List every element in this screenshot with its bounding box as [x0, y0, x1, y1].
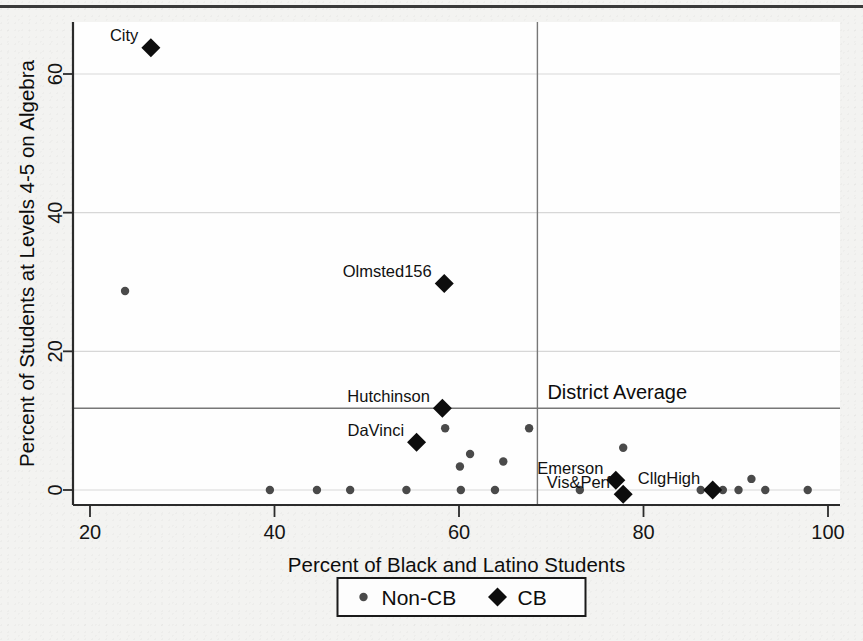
y-tick-label: 60 [44, 63, 66, 85]
data-point-non-cb [734, 486, 742, 494]
data-point-non-cb [346, 486, 354, 494]
y-tick-label: 40 [44, 202, 66, 224]
chart-legend[interactable]: Non-CB CB [338, 578, 586, 616]
point-label: Olmsted156 [343, 262, 432, 280]
data-point-non-cb [619, 444, 627, 452]
x-tick-label: 80 [632, 521, 654, 543]
x-tick-label: 100 [811, 521, 844, 543]
data-point-non-cb [761, 486, 769, 494]
data-point-non-cb [457, 486, 465, 494]
y-tick-label: 20 [44, 340, 66, 362]
x-axis-title: Percent of Black and Latino Students [288, 553, 625, 576]
district-average-label: District Average [547, 381, 687, 403]
point-label: Vis&Perf [547, 473, 611, 491]
data-point-non-cb [466, 450, 474, 458]
x-tick-label: 20 [79, 521, 101, 543]
point-label: CllgHigh [638, 469, 700, 487]
point-label: DaVinci [348, 421, 405, 439]
plot-area-background [73, 22, 840, 505]
legend-label-cb: CB [518, 586, 547, 609]
data-point-non-cb [266, 486, 274, 494]
point-label: Hutchinson [347, 387, 430, 405]
data-point-non-cb [402, 486, 410, 494]
x-tick-label: 40 [263, 521, 285, 543]
y-axis-ticks: 0204060 [44, 63, 73, 496]
legend-border [338, 578, 586, 616]
legend-label-non-cb: Non-CB [382, 586, 457, 609]
scatter-plot-figure: 20406080100 0204060 CityOlmsted156Hutchi… [0, 0, 863, 641]
x-axis-ticks: 20406080100 [79, 505, 845, 543]
data-point-non-cb [313, 486, 321, 494]
data-point-non-cb [441, 424, 449, 432]
data-point-non-cb [747, 475, 755, 483]
data-point-non-cb [491, 486, 499, 494]
point-label: City [110, 26, 139, 44]
data-point-non-cb [121, 287, 129, 295]
data-point-non-cb [525, 424, 533, 432]
legend-marker-non-cb [359, 593, 367, 601]
chart-canvas: 20406080100 0204060 CityOlmsted156Hutchi… [0, 0, 863, 641]
data-point-non-cb [804, 486, 812, 494]
y-axis-title: Percent of Students at Levels 4-5 on Alg… [15, 59, 38, 466]
data-point-non-cb [499, 457, 507, 465]
x-tick-label: 60 [448, 521, 470, 543]
data-point-non-cb [456, 462, 464, 470]
y-tick-label: 0 [44, 484, 66, 495]
